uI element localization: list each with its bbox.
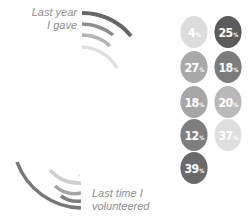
bubble-value: 18 xyxy=(219,60,233,75)
bottom-dot xyxy=(78,174,80,176)
percentage-bubble: 18% xyxy=(180,86,207,118)
percentage-bubble: 18% xyxy=(214,51,241,83)
percentage-bubble: 37% xyxy=(214,119,241,151)
top-arc-3 xyxy=(82,35,110,46)
bubble-unit: % xyxy=(233,134,237,141)
bottom-arc-2 xyxy=(50,170,81,183)
bubble-value: 37 xyxy=(219,128,233,143)
bubble-value: 12 xyxy=(185,128,199,143)
bubble-unit: % xyxy=(199,101,203,108)
percentage-bubble: 39% xyxy=(180,152,207,184)
percentage-bubble: 4% xyxy=(180,16,207,48)
percentage-bubble: 12% xyxy=(180,119,207,151)
top-arc-2 xyxy=(82,24,113,35)
bubble-value: 4 xyxy=(188,25,195,40)
bubble-value: 39 xyxy=(185,161,199,176)
bubble-unit: % xyxy=(233,31,237,38)
bubble-unit: % xyxy=(199,167,203,174)
bubble-value: 18 xyxy=(185,95,199,110)
label-line: I gave xyxy=(0,19,77,32)
percentage-bubble: 20% xyxy=(214,86,241,118)
bubble-unit: % xyxy=(199,134,203,141)
label-last-year-gave: Last year I gave xyxy=(0,6,77,32)
top-arcs xyxy=(82,13,131,68)
bottom-arcs xyxy=(17,162,81,208)
label-line: Last time I xyxy=(92,187,150,200)
label-line: volunteered xyxy=(92,200,150,213)
bubble-unit: % xyxy=(233,101,237,108)
top-arc-4 xyxy=(82,47,117,68)
percentage-bubble: 25% xyxy=(214,16,241,48)
bubble-value: 25 xyxy=(219,25,233,40)
bubble-unit: % xyxy=(199,66,203,73)
percentage-bubble: 27% xyxy=(180,51,207,83)
label-line: Last year xyxy=(0,6,77,19)
bottom-arc-4 xyxy=(61,196,81,201)
bubble-value: 27 xyxy=(185,60,199,75)
bubble-unit: % xyxy=(233,66,237,73)
bubble-value: 20 xyxy=(219,95,233,110)
label-last-time-volunteered: Last time I volunteered xyxy=(92,187,150,213)
bottom-arc-3 xyxy=(55,186,81,194)
bubble-unit: % xyxy=(196,31,200,38)
